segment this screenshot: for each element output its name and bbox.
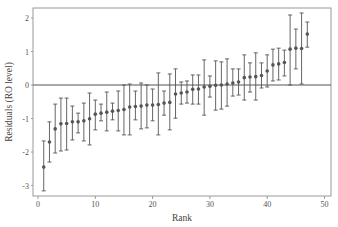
data-point xyxy=(214,61,218,110)
point-marker xyxy=(300,47,304,51)
y-tick-label: 2 xyxy=(25,14,29,23)
data-point xyxy=(196,75,200,104)
data-point xyxy=(202,60,206,115)
x-tick-label: 50 xyxy=(321,200,329,209)
point-marker xyxy=(116,109,120,113)
point-marker xyxy=(76,120,80,124)
data-point xyxy=(237,69,241,95)
data-point xyxy=(82,103,86,141)
data-point xyxy=(105,92,109,131)
data-point xyxy=(191,75,195,104)
data-point xyxy=(122,85,126,135)
x-axis: 01020304050 xyxy=(36,196,329,209)
point-marker xyxy=(185,90,189,94)
data-point xyxy=(174,69,178,118)
data-point xyxy=(88,93,92,145)
data-point xyxy=(277,48,281,80)
x-axis-title: Rank xyxy=(172,213,192,223)
point-marker xyxy=(134,105,138,109)
point-marker xyxy=(71,120,75,124)
data-point xyxy=(162,91,166,115)
point-marker xyxy=(306,32,310,36)
point-marker xyxy=(157,103,161,107)
data-point xyxy=(47,122,51,162)
data-point xyxy=(282,50,286,76)
y-axis: -3-2-1012 xyxy=(22,14,33,191)
point-marker xyxy=(94,112,98,116)
point-marker xyxy=(59,122,63,126)
point-marker xyxy=(248,75,252,79)
data-point xyxy=(42,141,46,191)
point-marker xyxy=(99,111,103,115)
data-point xyxy=(271,49,275,81)
data-point xyxy=(305,22,309,47)
data-point xyxy=(265,55,269,87)
y-axis-title: Residuals (RO level) xyxy=(4,62,15,142)
data-point xyxy=(59,98,63,151)
point-marker xyxy=(283,61,287,65)
data-point xyxy=(208,76,212,97)
point-marker xyxy=(88,117,92,121)
data-point xyxy=(219,62,223,109)
data-point xyxy=(254,53,258,100)
point-marker xyxy=(197,87,201,91)
data-points xyxy=(42,13,310,191)
point-marker xyxy=(162,101,166,105)
x-tick-label: 40 xyxy=(263,200,271,209)
data-point xyxy=(231,69,235,96)
point-marker xyxy=(208,85,212,89)
y-tick-label: -3 xyxy=(22,182,29,191)
point-marker xyxy=(191,88,195,92)
data-point xyxy=(70,106,74,140)
data-point xyxy=(110,103,114,120)
point-marker xyxy=(220,83,224,87)
data-point xyxy=(128,84,132,135)
caterpillar-chart: -3-2-1012 01020304050 Rank Residuals (RO… xyxy=(0,0,338,227)
point-marker xyxy=(122,108,126,112)
point-marker xyxy=(151,103,155,107)
point-marker xyxy=(174,92,178,96)
point-marker xyxy=(214,84,218,88)
point-marker xyxy=(225,82,229,86)
data-point xyxy=(76,113,80,133)
point-marker xyxy=(53,127,57,131)
point-marker xyxy=(48,140,52,144)
data-point xyxy=(116,91,120,131)
point-marker xyxy=(271,63,275,67)
y-tick-label: -1 xyxy=(22,115,29,124)
data-point xyxy=(99,104,103,121)
point-marker xyxy=(288,47,292,51)
x-tick-label: 10 xyxy=(91,200,99,209)
y-tick-label: -2 xyxy=(22,148,29,157)
data-point xyxy=(93,100,97,130)
data-point xyxy=(145,85,149,128)
data-point xyxy=(156,73,160,135)
point-marker xyxy=(265,69,269,73)
point-marker xyxy=(111,109,115,113)
point-marker xyxy=(168,101,172,105)
point-marker xyxy=(242,76,246,80)
point-marker xyxy=(179,91,183,95)
point-marker xyxy=(105,110,109,114)
data-point xyxy=(259,63,263,88)
point-marker xyxy=(260,74,264,78)
point-marker xyxy=(82,119,86,123)
data-point xyxy=(151,89,155,121)
point-marker xyxy=(202,85,206,89)
point-marker xyxy=(42,165,46,169)
data-point xyxy=(139,83,143,129)
point-marker xyxy=(254,75,258,79)
point-marker xyxy=(277,62,281,66)
point-marker xyxy=(128,105,132,109)
x-tick-label: 20 xyxy=(149,200,157,209)
plot-frame xyxy=(33,8,331,196)
point-marker xyxy=(65,122,69,126)
data-point xyxy=(300,13,304,84)
data-point xyxy=(288,15,292,85)
x-tick-label: 0 xyxy=(36,200,40,209)
point-marker xyxy=(294,46,298,50)
point-marker xyxy=(231,81,235,85)
data-point xyxy=(168,74,172,130)
point-marker xyxy=(237,80,241,84)
y-tick-label: 0 xyxy=(25,81,29,90)
